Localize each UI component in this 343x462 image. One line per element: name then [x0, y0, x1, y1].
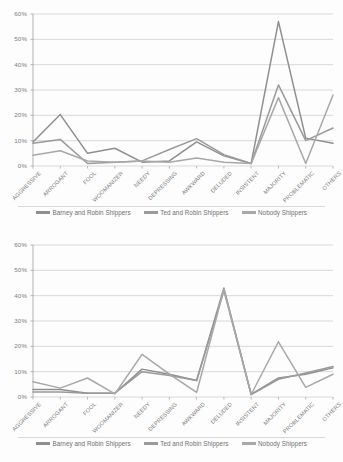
y-tick-label: 10% [5, 368, 27, 375]
series-line-2 [33, 291, 333, 395]
y-tick-label: 60% [5, 10, 27, 17]
y-tick-label: 10% [5, 137, 27, 144]
y-tick-label: 50% [5, 35, 27, 42]
legend-item-1[interactable]: Barney and Robin Shippers [36, 440, 131, 447]
y-tick-label: 20% [5, 342, 27, 349]
legend-label: Barney and Robin Shippers [52, 209, 130, 216]
legend-swatch-icon [36, 211, 50, 213]
chart-bottom-legend: Barney and Robin ShippersTed and Robin S… [0, 440, 343, 447]
legend-label: Barney and Robin Shippers [52, 440, 130, 447]
y-tick-label: 40% [5, 292, 27, 299]
series-line-1 [33, 22, 333, 164]
chart-top-legend: Barney and Robin ShippersTed and Robin S… [0, 209, 343, 216]
chart-bottom: 0%10%20%30%40%50%60% AGGRESSIVEARROGANTF… [0, 231, 343, 462]
chart-top-plot-area: 0%10%20%30%40%50%60% AGGRESSIVEARROGANTF… [0, 0, 343, 231]
legend-item-2[interactable]: Ted and Robin Shippers [144, 440, 229, 447]
legend-item-2[interactable]: Ted and Robin Shippers [144, 209, 229, 216]
chart-bottom-plot-area: 0%10%20%30%40%50%60% AGGRESSIVEARROGANTF… [0, 231, 343, 462]
legend-swatch-icon [242, 442, 256, 444]
legend-swatch-icon [144, 211, 158, 213]
y-tick-label: 20% [5, 111, 27, 118]
y-tick-label: 50% [5, 266, 27, 273]
chart-top: 0%10%20%30%40%50%60% AGGRESSIVEARROGANTF… [0, 0, 343, 231]
legend-swatch-icon [242, 211, 256, 213]
y-tick-label: 30% [5, 86, 27, 93]
y-tick-label: 40% [5, 61, 27, 68]
legend-label: Ted and Robin Shippers [160, 440, 228, 447]
y-tick-label: 0% [5, 162, 27, 169]
legend-label: Nobody Shippers [258, 209, 307, 216]
y-tick-label: 60% [5, 241, 27, 248]
legend-label: Nobody Shippers [258, 440, 307, 447]
y-tick-label: 0% [5, 393, 27, 400]
legend-item-1[interactable]: Barney and Robin Shippers [36, 209, 131, 216]
chart-bottom-legend-divider [18, 437, 325, 438]
legend-item-3[interactable]: Nobody Shippers [242, 440, 308, 447]
legend-item-3[interactable]: Nobody Shippers [242, 209, 308, 216]
chart-page: 0%10%20%30%40%50%60% AGGRESSIVEARROGANTF… [0, 0, 343, 462]
legend-label: Ted and Robin Shippers [160, 209, 228, 216]
legend-swatch-icon [144, 442, 158, 444]
chart-top-legend-divider [18, 206, 325, 207]
legend-swatch-icon [36, 442, 50, 444]
y-tick-label: 30% [5, 317, 27, 324]
